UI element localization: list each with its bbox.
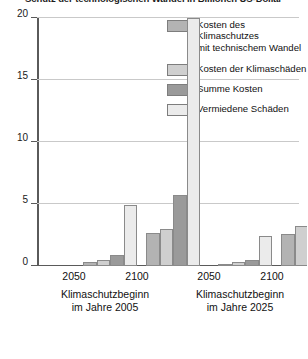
caption-line-2: im Jahre 2025 (207, 301, 274, 313)
caption-line-1: Klimaschutzbeginn (196, 288, 284, 300)
legend-label: Summe Kosten (197, 83, 263, 94)
bar-chart: Schutz der technologischen Wandel in Bil… (0, 0, 307, 359)
x-tick-label-2050-group1: 2050 (62, 270, 85, 282)
legend-label: Kosten der Klimaschäden (197, 63, 306, 74)
legend-label-line-1: Kosten des Klimaschutzes (197, 19, 259, 41)
legend-label-line-2: mit technischem Wandel (197, 42, 301, 53)
legend-label: Kosten des Klimaschutzesmit technischem … (197, 19, 307, 53)
bar (259, 236, 273, 266)
legend-label-line-1: Kosten der Klimaschäden (197, 63, 306, 74)
legend-label-line-1: Summe Kosten (197, 83, 263, 94)
x-axis-caption-group1: Klimaschutzbeginn im Jahre 2005 (61, 288, 149, 313)
bar (97, 260, 111, 266)
caption-line-1: Klimaschutzbeginn (61, 288, 149, 300)
bar (160, 229, 174, 266)
chart-title: Schutz der technologischen Wandel in Bil… (0, 0, 307, 4)
bar (110, 255, 124, 266)
x-tick-label-2100-group1: 2100 (125, 270, 148, 282)
bar (295, 226, 308, 266)
bar (173, 195, 187, 266)
y-tick-label-15: 15 (17, 70, 28, 81)
bar (187, 18, 201, 266)
bar (218, 264, 232, 266)
legend-label: Vermiedene Schäden (197, 103, 289, 114)
bar (124, 205, 138, 266)
bar (245, 260, 259, 266)
bar (281, 234, 295, 266)
bar (146, 233, 160, 266)
y-tick-label-10: 10 (17, 132, 28, 143)
y-tick-label-0: 0 (22, 256, 28, 267)
x-tick-label-2050-group2: 2050 (197, 270, 220, 282)
y-tick-label-20: 20 (17, 8, 28, 19)
x-axis-caption-group2: Klimaschutzbeginn im Jahre 2025 (196, 288, 284, 313)
x-tick-label-2100-group2: 2100 (260, 270, 283, 282)
bar (232, 262, 246, 266)
legend-label-line-1: Vermiedene Schäden (197, 103, 289, 114)
y-tick-label-5: 5 (22, 194, 28, 205)
caption-line-2: im Jahre 2005 (72, 301, 139, 313)
bar (83, 262, 97, 266)
